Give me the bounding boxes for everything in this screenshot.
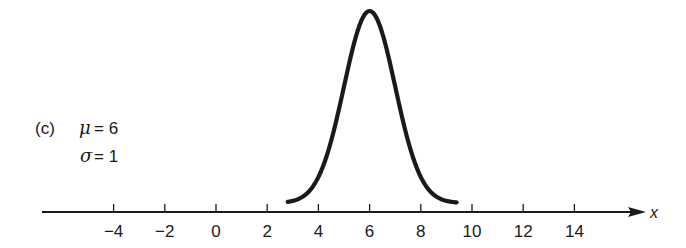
x-tick-label: 2 — [262, 222, 271, 241]
x-tick-label: 10 — [463, 222, 482, 241]
x-tick-label: −2 — [155, 222, 174, 241]
normal-curve — [288, 11, 457, 202]
x-tick-label: 12 — [514, 222, 533, 241]
x-tick-label: 0 — [211, 222, 220, 241]
sigma-value: = 1 — [94, 147, 118, 166]
mu-symbol: μ — [79, 117, 91, 138]
mu-value: = 6 — [94, 119, 118, 138]
x-tick-label: −4 — [104, 222, 123, 241]
panel-label: (c) — [35, 119, 55, 138]
x-tick-label: 8 — [416, 222, 425, 241]
x-axis-label: x — [649, 204, 659, 221]
sigma-symbol: σ — [80, 145, 93, 166]
normal-distribution-chart: x −4−202468101214 (c) μ = 6 σ = 1 — [0, 0, 686, 248]
x-tick-label: 6 — [365, 222, 374, 241]
x-tick-label: 4 — [314, 222, 323, 241]
x-axis-ticks: −4−202468101214 — [104, 204, 584, 241]
x-tick-label: 14 — [565, 222, 584, 241]
